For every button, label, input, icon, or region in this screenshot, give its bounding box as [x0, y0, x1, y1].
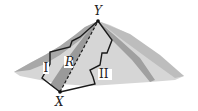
mountain-diagram: Y X I R II	[0, 0, 198, 111]
label-path-two: II	[99, 67, 109, 81]
label-region-r: R	[64, 55, 74, 69]
label-x: X	[54, 95, 64, 109]
label-path-one: I	[44, 61, 49, 75]
label-y: Y	[94, 4, 103, 18]
point-x	[58, 90, 62, 94]
point-y	[96, 19, 100, 23]
